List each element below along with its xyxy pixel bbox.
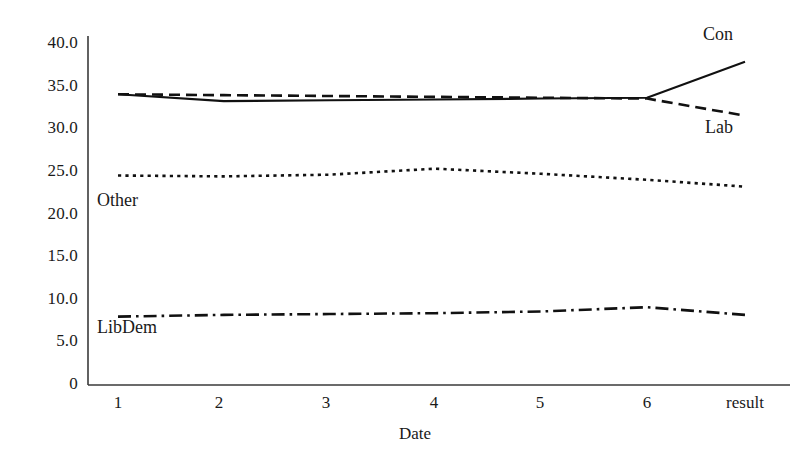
x-tick-label-4: 4 — [404, 393, 464, 413]
series-label-libdem: LibDem — [97, 317, 157, 338]
series-line-lab — [118, 94, 745, 115]
x-tick-label-6: 6 — [617, 393, 677, 413]
series-label-lab: Lab — [705, 117, 733, 138]
plot-area — [0, 0, 810, 457]
x-axis-title: Date — [370, 424, 460, 444]
y-tick-label-7: 5.0 — [18, 331, 78, 351]
x-tick-label-2: 2 — [189, 393, 249, 413]
line-chart-figure: 40.0 35.0 30.0 25.0 20.0 15.0 10.0 5.0 0… — [0, 0, 810, 457]
y-tick-label-8: 0 — [18, 374, 78, 394]
series-label-con: Con — [703, 24, 733, 45]
x-tick-label-1: 1 — [88, 393, 148, 413]
y-tick-label-0: 40.0 — [18, 33, 78, 53]
y-tick-label-4: 20.0 — [18, 204, 78, 224]
series-group — [118, 62, 745, 317]
x-tick-label-3: 3 — [296, 393, 356, 413]
y-tick-label-2: 30.0 — [18, 118, 78, 138]
series-line-libdem — [118, 307, 745, 316]
series-label-other: Other — [97, 190, 138, 211]
x-tick-label-result: result — [705, 393, 785, 413]
y-tick-label-6: 10.0 — [18, 289, 78, 309]
x-tick-label-5: 5 — [510, 393, 570, 413]
y-tick-label-3: 25.0 — [18, 161, 78, 181]
y-tick-label-5: 15.0 — [18, 246, 78, 266]
y-tick-label-1: 35.0 — [18, 76, 78, 96]
series-line-other — [118, 169, 745, 187]
